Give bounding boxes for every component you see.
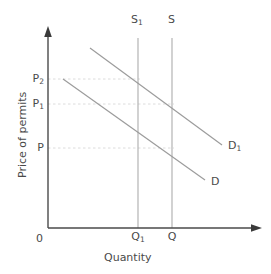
demand-curve-d1 — [90, 48, 222, 145]
supply-curve-s-label: S — [168, 14, 175, 25]
origin-label: 0 — [36, 233, 43, 244]
price-tick-p2-label: P2 — [20, 73, 44, 84]
quantity-tick-q1-label: Q1 — [124, 231, 152, 242]
x-axis-arrowhead — [251, 224, 262, 232]
x-axis-title: Quantity — [104, 252, 152, 263]
supply-curve-s1-label: S1 — [131, 14, 143, 25]
demand-curve-d — [63, 79, 205, 180]
permit-market-diagram: S1 S D1 D P2 P1 P Q1 Q 0 Quantity Price … — [0, 0, 271, 274]
y-axis-arrowhead — [44, 26, 52, 37]
y-axis-title: Price of permits — [16, 92, 29, 178]
demand-curve-d1-label: D1 — [228, 140, 241, 151]
demand-curve-d-label: D — [211, 176, 219, 187]
quantity-tick-q-label: Q — [159, 231, 185, 242]
